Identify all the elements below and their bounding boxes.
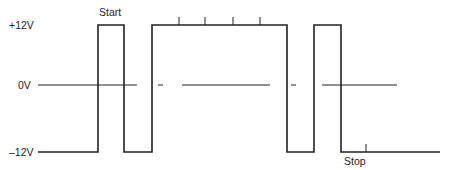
level-label-plus12v: +12V xyxy=(9,20,34,31)
bit-tick-marks xyxy=(179,17,260,25)
signal-waveform xyxy=(38,25,440,152)
level-label-0v: 0V xyxy=(18,80,31,91)
waveform-diagram xyxy=(0,0,450,170)
start-label: Start xyxy=(99,7,121,18)
stop-label: Stop xyxy=(344,156,366,167)
level-label-minus12v: –12V xyxy=(9,147,34,158)
